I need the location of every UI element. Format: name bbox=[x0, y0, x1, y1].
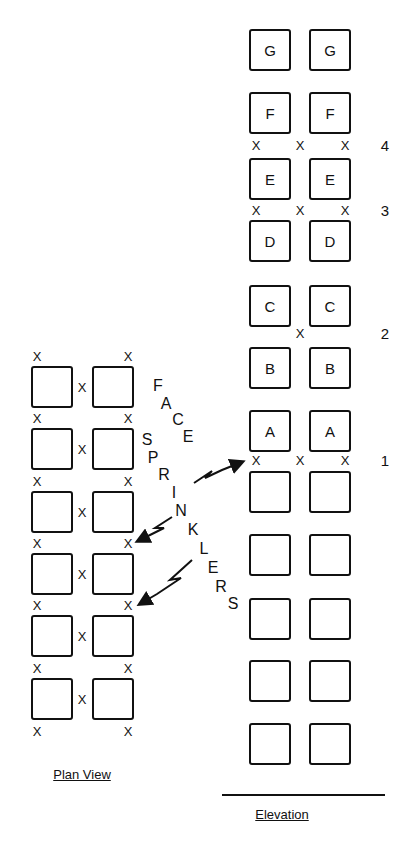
arrow-icons bbox=[0, 0, 416, 849]
zigzag-arrow-icon bbox=[140, 560, 192, 604]
zigzag-arrow-icon bbox=[194, 462, 242, 483]
zigzag-arrow-icon bbox=[138, 517, 172, 541]
